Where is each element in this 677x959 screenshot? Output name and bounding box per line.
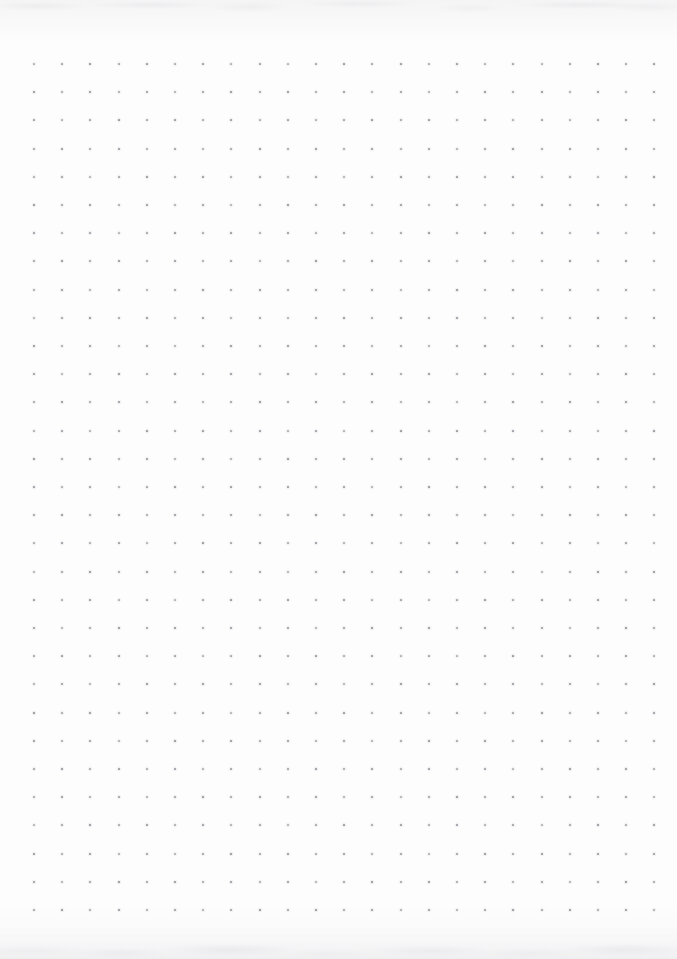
grid-dot <box>287 599 289 601</box>
grid-dot <box>541 514 543 516</box>
grid-dot <box>174 373 176 375</box>
grid-dot <box>569 683 571 685</box>
grid-dot <box>33 458 35 460</box>
grid-dot <box>315 232 317 234</box>
grid-dot <box>569 542 571 544</box>
grid-dot <box>89 627 91 629</box>
grid-dot <box>202 119 204 121</box>
grid-dot <box>541 881 543 883</box>
grid-dot <box>202 909 204 911</box>
grid-dot <box>653 796 655 798</box>
grid-dot <box>625 345 627 347</box>
grid-dot <box>33 768 35 770</box>
grid-dot <box>259 627 261 629</box>
grid-dot <box>456 571 458 573</box>
grid-dot <box>512 91 514 93</box>
grid-dot <box>343 91 345 93</box>
grid-dot <box>371 148 373 150</box>
grid-dot <box>230 486 232 488</box>
grid-dot <box>484 853 486 855</box>
grid-dot <box>118 204 120 206</box>
grid-dot <box>230 204 232 206</box>
grid-dot <box>89 260 91 262</box>
grid-dot <box>33 148 35 150</box>
grid-dot <box>653 63 655 65</box>
grid-dot <box>61 571 63 573</box>
grid-dot <box>89 853 91 855</box>
grid-dot <box>146 768 148 770</box>
grid-dot <box>33 599 35 601</box>
grid-dot <box>569 824 571 826</box>
grid-dot <box>287 796 289 798</box>
grid-dot <box>625 740 627 742</box>
grid-dot <box>259 289 261 291</box>
grid-dot <box>146 204 148 206</box>
grid-dot <box>456 63 458 65</box>
grid-dot <box>118 571 120 573</box>
grid-dot <box>625 712 627 714</box>
grid-dot <box>33 119 35 121</box>
grid-dot <box>174 91 176 93</box>
grid-dot <box>400 91 402 93</box>
grid-dot <box>315 430 317 432</box>
grid-dot <box>428 571 430 573</box>
grid-dot <box>371 655 373 657</box>
grid-dot <box>33 260 35 262</box>
grid-dot <box>400 853 402 855</box>
grid-dot <box>33 655 35 657</box>
grid-dot <box>371 401 373 403</box>
grid-dot <box>428 909 430 911</box>
grid-dot <box>146 740 148 742</box>
grid-dot <box>371 176 373 178</box>
grid-dot <box>343 458 345 460</box>
grid-dot <box>118 486 120 488</box>
grid-dot <box>230 317 232 319</box>
grid-dot <box>597 91 599 93</box>
grid-dot <box>625 683 627 685</box>
grid-dot <box>315 176 317 178</box>
grid-dot <box>653 486 655 488</box>
grid-dot <box>400 683 402 685</box>
grid-dot <box>343 768 345 770</box>
grid-dot <box>146 571 148 573</box>
grid-dot <box>287 91 289 93</box>
grid-dot <box>456 683 458 685</box>
grid-dot <box>541 232 543 234</box>
grid-dot <box>202 514 204 516</box>
grid-dot <box>541 260 543 262</box>
grid-dot <box>625 289 627 291</box>
grid-dot <box>230 796 232 798</box>
grid-dot <box>89 289 91 291</box>
grid-dot <box>371 683 373 685</box>
grid-dot <box>33 204 35 206</box>
grid-dot <box>315 63 317 65</box>
grid-dot <box>202 232 204 234</box>
grid-dot <box>202 458 204 460</box>
grid-dot <box>315 571 317 573</box>
grid-dot <box>653 768 655 770</box>
grid-dot <box>230 458 232 460</box>
grid-dot <box>597 232 599 234</box>
grid-dot <box>400 627 402 629</box>
grid-dot <box>118 627 120 629</box>
grid-dot <box>287 260 289 262</box>
grid-dot <box>230 63 232 65</box>
grid-dot <box>174 881 176 883</box>
grid-dot <box>174 204 176 206</box>
grid-dot <box>512 289 514 291</box>
grid-dot <box>146 796 148 798</box>
grid-dot <box>89 542 91 544</box>
grid-dot <box>287 824 289 826</box>
grid-dot <box>456 148 458 150</box>
grid-dot <box>343 430 345 432</box>
grid-dot <box>569 881 571 883</box>
grid-dot <box>400 373 402 375</box>
grid-dot <box>259 486 261 488</box>
grid-dot <box>118 909 120 911</box>
grid-dot <box>89 91 91 93</box>
grid-dot <box>512 627 514 629</box>
grid-dot <box>89 655 91 657</box>
grid-dot <box>371 768 373 770</box>
grid-dot <box>541 853 543 855</box>
grid-dot <box>428 853 430 855</box>
